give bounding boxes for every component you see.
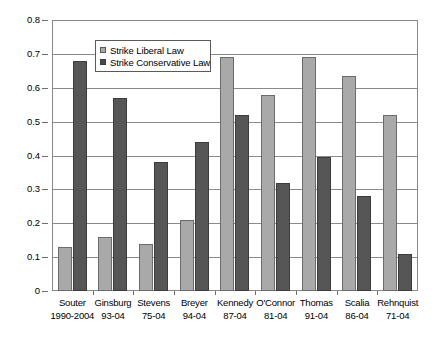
y-axis: 00.10.20.30.40.50.60.70.8 xyxy=(0,0,52,338)
y-tick-label: 0.1 xyxy=(27,252,40,262)
x-category-years: 71-04 xyxy=(371,310,424,323)
x-tick-mark xyxy=(93,291,94,295)
legend-swatch-icon-conservative xyxy=(100,59,106,65)
bar-group xyxy=(377,20,418,291)
bar-strike-conservative-law xyxy=(317,157,331,291)
bar-strike-liberal-law xyxy=(302,57,316,291)
x-tick-mark xyxy=(296,291,297,295)
bar-strike-conservative-law xyxy=(276,183,290,291)
y-tick-label: 0.2 xyxy=(27,218,40,228)
x-tick-mark xyxy=(377,291,378,295)
bar-strike-liberal-law xyxy=(261,95,275,291)
bar-strike-liberal-law xyxy=(342,76,356,291)
bar-strike-liberal-law xyxy=(220,57,234,291)
bar-strike-liberal-law xyxy=(139,244,153,291)
bar-strike-conservative-law xyxy=(195,142,209,291)
y-tick-mark xyxy=(42,88,48,89)
legend-entry-liberal: Strike Liberal Law xyxy=(100,44,206,56)
x-category-label: Rehnquist71-04 xyxy=(371,297,424,322)
y-tick-mark xyxy=(42,257,48,258)
x-tick-mark xyxy=(133,291,134,295)
bar-group xyxy=(296,20,337,291)
bar-strike-conservative-law xyxy=(113,98,127,291)
bar-strike-conservative-law xyxy=(154,162,168,291)
y-tick-label: 0.8 xyxy=(27,15,40,25)
bar-strike-conservative-law xyxy=(235,115,249,291)
bar-strike-conservative-law xyxy=(398,254,412,291)
y-tick-label: 0 xyxy=(35,286,40,296)
bar-strike-liberal-law xyxy=(180,220,194,291)
bar-group xyxy=(215,20,256,291)
bar-strike-liberal-law xyxy=(58,247,72,291)
bar-group xyxy=(255,20,296,291)
y-tick-mark xyxy=(42,20,48,21)
y-tick-label: 0.3 xyxy=(27,184,40,194)
y-tick-mark xyxy=(42,189,48,190)
y-tick-mark xyxy=(42,122,48,123)
bar-strike-liberal-law xyxy=(383,115,397,291)
bar-strike-liberal-law xyxy=(98,237,112,291)
x-tick-mark xyxy=(215,291,216,295)
x-axis-labels: Souter1990-2004Ginsburg93-04Stevens75-04… xyxy=(52,297,418,337)
y-tick-label: 0.7 xyxy=(27,49,40,59)
bar-group xyxy=(52,20,93,291)
bar-strike-conservative-law xyxy=(73,61,87,291)
y-tick-label: 0.4 xyxy=(27,151,40,161)
y-tick-mark xyxy=(42,223,48,224)
legend-label-conservative: Strike Conservative Law xyxy=(110,57,210,68)
bar-group xyxy=(337,20,378,291)
legend-label-liberal: Strike Liberal Law xyxy=(110,45,184,56)
x-tick-mark xyxy=(174,291,175,295)
chart-legend: Strike Liberal Law Strike Conservative L… xyxy=(95,40,211,72)
x-tick-mark xyxy=(337,291,338,295)
y-tick-label: 0.6 xyxy=(27,83,40,93)
y-tick-mark xyxy=(42,156,48,157)
legend-entry-conservative: Strike Conservative Law xyxy=(100,56,206,68)
bar-strike-conservative-law xyxy=(357,196,371,291)
x-tick-mark xyxy=(255,291,256,295)
y-tick-label: 0.5 xyxy=(27,117,40,127)
y-tick-mark xyxy=(42,54,48,55)
legend-swatch-icon-liberal xyxy=(100,47,106,53)
x-axis-ticks xyxy=(52,291,418,296)
x-category-name: Rehnquist xyxy=(371,297,424,310)
bar-chart: 00.10.20.30.40.50.60.70.8 Souter1990-200… xyxy=(0,0,440,338)
y-tick-mark xyxy=(42,291,48,292)
